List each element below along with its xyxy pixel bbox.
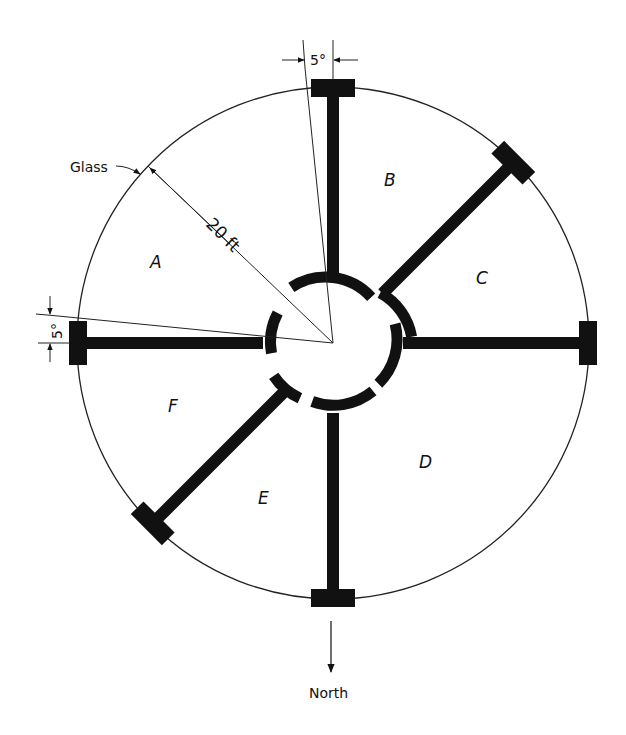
circular-building-plan: 5° 5° Glass 20 ft A B C D E F North bbox=[0, 0, 626, 735]
angle-label-left: 5° bbox=[49, 323, 65, 339]
zone-label-e: E bbox=[258, 488, 269, 508]
zone-label-b: B bbox=[384, 170, 396, 190]
wall-east bbox=[403, 321, 597, 365]
wall-south-down bbox=[311, 413, 355, 607]
zone-label-a: A bbox=[149, 252, 162, 272]
glass-leader bbox=[116, 166, 140, 174]
angle-label-top: 5° bbox=[310, 52, 326, 68]
construction-lines bbox=[58, 68, 333, 343]
zone-label-d: D bbox=[419, 452, 432, 472]
inner-ring bbox=[266, 277, 419, 405]
zone-label-c: C bbox=[476, 268, 488, 288]
wall-northeast bbox=[367, 141, 535, 309]
zone-label-f: F bbox=[168, 396, 178, 416]
wall-north-up bbox=[311, 79, 355, 273]
north-label: North bbox=[309, 685, 348, 701]
wall-southwest bbox=[131, 377, 299, 545]
glass-label: Glass bbox=[70, 159, 108, 175]
wall-west bbox=[69, 321, 263, 365]
radius-label: 20 ft bbox=[202, 214, 244, 256]
